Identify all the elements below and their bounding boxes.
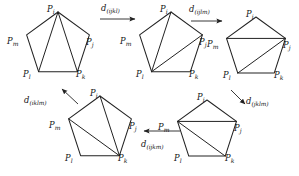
arrow-1-label: d(ijkl) [101,4,120,13]
vertex-label-j-bottom-right: Pj [234,124,241,132]
vertex-label-m-top-center: Pm [120,37,131,45]
vertex-label-j-top-left: Pj [86,38,93,46]
vertex-label-l-bottom-left: Pl [65,154,73,162]
arrow-3 [231,90,245,104]
vertex-label-i-top-center: Pi [160,5,168,13]
vertex-label-l-top-left: Pl [23,70,31,78]
vertex-label-m-bottom-left: Pm [49,121,60,129]
pentagon-outline [27,12,90,72]
arrow-3-label: d(jklm) [246,97,268,106]
diagonal-mk [69,119,120,156]
arrow-4-label: d(ijkm) [141,140,163,149]
polygon-group [27,12,286,156]
pentagon-top-right [227,17,286,73]
vertex-label-l-top-center: Pl [136,70,144,78]
diagonal-ik [100,96,119,156]
vertex-label-m-top-right: Pm [207,40,218,48]
vertex-label-k-top-left: Pk [76,70,85,78]
vertex-label-m-top-left: Pm [7,37,18,45]
vertex-label-i-top-right: Pi [246,10,254,18]
vertex-label-j-top-right: Pj [283,41,290,49]
arrow-2-label: d(ijlm) [189,5,210,14]
vertex-label-k-bottom-right: Pk [225,154,234,162]
arrow-5 [62,89,78,104]
vertex-label-j-top-center: Pj [199,38,206,46]
diagonal-ik [58,12,77,72]
diagonal-il [39,12,58,72]
diagonal-lj [238,38,286,73]
pentagon-bottom-right [178,100,237,156]
vertex-label-k-top-center: Pk [189,70,198,78]
pentagon-bottom-left [69,96,132,156]
vertex-label-k-top-right: Pk [274,71,283,79]
pentagon-top-left [27,12,90,72]
vertex-label-l-bottom-right: Pl [174,154,182,162]
vertex-label-i-bottom-left: Pi [90,89,98,97]
vertex-label-i-top-left: Pi [47,5,55,13]
vertex-label-j-bottom-left: Pj [129,122,136,130]
diagonal-lj [152,35,203,72]
vertex-label-m-bottom-right: Pm [158,123,169,131]
diagonal-mk [178,121,226,156]
diagonal-li [152,12,171,72]
vertex-label-l-top-right: Pl [223,71,231,79]
vertex-label-k-bottom-left: Pk [118,154,127,162]
arrow-5-label: d(iklm) [24,96,46,105]
vertex-label-i-bottom-right: Pi [197,93,205,101]
pentagon-flip-diagram: PiPjPkPlPmPiPjPkPlPmPiPjPkPlPmPiPjPkPlPm… [0,0,299,176]
